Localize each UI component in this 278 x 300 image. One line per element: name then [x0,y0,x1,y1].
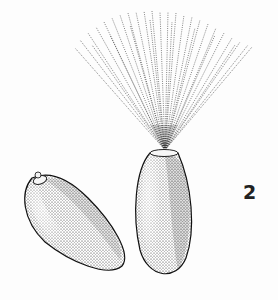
achene-upright [134,150,194,275]
figure-number-label: 2 [243,181,256,203]
seed-drawing [0,0,278,300]
achene-leaning [25,172,125,270]
illustration-canvas: 2 [0,0,278,300]
